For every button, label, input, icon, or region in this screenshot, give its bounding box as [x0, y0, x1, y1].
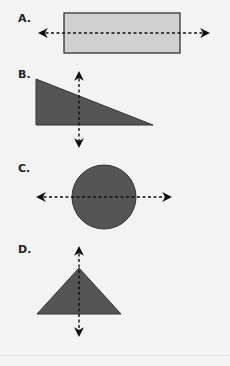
- isosceles-triangle-shape: [37, 268, 121, 314]
- option-d-figure: [37, 248, 121, 335]
- right-triangle-shape: [36, 79, 153, 125]
- diagram-canvas: [0, 0, 230, 366]
- option-c-figure: [38, 165, 170, 229]
- option-b-figure: [36, 73, 153, 146]
- option-a-figure: [40, 13, 208, 53]
- bottom-divider: [0, 355, 230, 356]
